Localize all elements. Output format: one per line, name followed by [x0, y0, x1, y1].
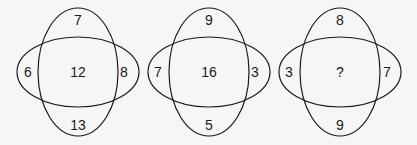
center-value: 12	[70, 64, 86, 80]
diagram-2: 9 7 16 3 5	[148, 8, 270, 136]
top-value: 9	[205, 12, 213, 28]
bottom-value: 9	[336, 117, 344, 133]
top-value: 7	[74, 12, 82, 28]
bottom-value: 13	[70, 117, 86, 133]
left-value: 7	[154, 64, 162, 80]
right-value: 8	[120, 64, 128, 80]
puzzle-figure: 7 6 12 8 13 9 7 16 3 5 8 3 ? 7 9	[0, 0, 417, 145]
center-value: ?	[336, 64, 344, 80]
diagram-1: 7 6 12 8 13	[17, 8, 139, 136]
center-value: 16	[201, 64, 217, 80]
bottom-value: 5	[205, 117, 213, 133]
top-value: 8	[336, 12, 344, 28]
left-value: 6	[24, 64, 32, 80]
right-value: 3	[251, 64, 259, 80]
diagram-3: 8 3 ? 7 9	[279, 8, 401, 136]
left-value: 3	[285, 64, 293, 80]
right-value: 7	[383, 64, 391, 80]
